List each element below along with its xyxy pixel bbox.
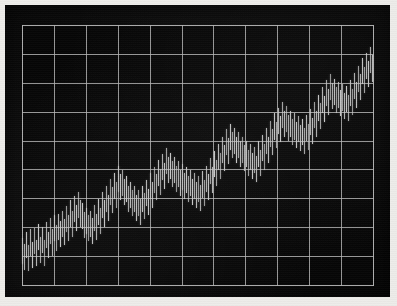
chart-bar — [66, 206, 67, 232]
chart-bar — [204, 180, 205, 206]
chart-bar — [336, 87, 337, 113]
chart-bar — [290, 111, 291, 137]
chart-bar — [176, 166, 177, 192]
chart-bar — [306, 115, 307, 141]
chart-bar — [82, 203, 83, 229]
chart-bar — [194, 173, 195, 199]
chart-bar — [140, 199, 141, 225]
chart-bar — [124, 179, 125, 205]
chart-bar — [212, 167, 213, 193]
chart-bar — [280, 116, 281, 142]
chart-bar — [230, 124, 231, 150]
chart-bar — [168, 157, 169, 183]
chart-bar — [196, 182, 197, 208]
chart-bar — [214, 151, 215, 177]
chart-bar — [166, 148, 167, 174]
chart-bar — [96, 214, 97, 240]
chart-bar — [118, 166, 119, 192]
chart-bar — [228, 138, 229, 164]
chart-bar — [30, 229, 31, 255]
chart-bar — [154, 167, 155, 193]
chart-bar — [28, 245, 29, 271]
chart-bar — [78, 192, 79, 218]
chart-bar — [294, 113, 295, 139]
chart-bar — [84, 212, 85, 238]
chart-bar — [44, 240, 45, 266]
chart-bar — [356, 82, 357, 108]
chart-bar — [274, 113, 275, 139]
chart-bar — [236, 137, 237, 163]
chart-bar — [156, 174, 157, 200]
chart-bar — [252, 153, 253, 179]
chart-bar — [330, 74, 331, 100]
chart-bar — [352, 89, 353, 115]
chart-bar — [188, 176, 189, 202]
chart-bar — [326, 80, 327, 106]
chart-bar — [184, 173, 185, 199]
chart-bar — [104, 200, 105, 226]
chart-bar — [58, 214, 59, 240]
chart-bar — [298, 116, 299, 142]
chart-bar — [50, 218, 51, 244]
chart-bar — [360, 74, 361, 100]
chart-plot-area — [22, 25, 374, 286]
chart-bar — [180, 170, 181, 196]
chart-bar — [344, 93, 345, 119]
chart-bar — [262, 135, 263, 161]
chart-bar — [266, 128, 267, 154]
chart-bar — [110, 179, 111, 205]
chart-bar — [222, 137, 223, 163]
chart-bar — [258, 141, 259, 167]
chart-bar — [332, 83, 333, 109]
chart-bar — [340, 90, 341, 116]
chart-bar — [108, 195, 109, 221]
chart-bar — [62, 211, 63, 237]
chart-bar — [74, 196, 75, 222]
chart-bar — [132, 190, 133, 216]
chart-bar — [134, 186, 135, 212]
chart-bar — [284, 111, 285, 137]
chart-bar — [334, 79, 335, 105]
chart-bar — [256, 156, 257, 182]
chart-bar — [276, 122, 277, 148]
chart-bar — [100, 208, 101, 234]
crt-screen — [22, 25, 374, 286]
chart-bar — [246, 141, 247, 167]
chart-bar — [288, 115, 289, 141]
chart-bar — [46, 222, 47, 248]
chart-bar — [170, 153, 171, 179]
chart-bar — [52, 229, 53, 255]
chart-bar — [42, 227, 43, 253]
chart-bar — [152, 182, 153, 208]
chart-bar — [302, 119, 303, 145]
chart-bar — [68, 215, 69, 241]
chart-bar — [160, 169, 161, 195]
chart-bar — [126, 176, 127, 202]
chart-bar — [328, 89, 329, 115]
chart-bar — [250, 144, 251, 170]
chart-bar — [182, 164, 183, 190]
chart-bar — [338, 82, 339, 108]
chart-bar — [86, 208, 87, 234]
chart-bar — [370, 47, 371, 73]
chart-bar — [138, 190, 139, 216]
chart-bar — [70, 200, 71, 226]
chart-bar — [116, 182, 117, 208]
chart-bar — [128, 186, 129, 212]
chart-bar — [164, 163, 165, 189]
chart-bar — [162, 154, 163, 180]
chart-bar — [22, 238, 23, 264]
chart-bar — [150, 173, 151, 199]
chart-bar — [144, 193, 145, 219]
chart-bar — [286, 106, 287, 132]
chart-bar — [38, 224, 39, 250]
chart-bar — [358, 66, 359, 92]
chart-bar — [254, 147, 255, 173]
chart-bar — [34, 228, 35, 254]
chart-bar — [372, 55, 373, 81]
chart-bar — [322, 87, 323, 113]
chart-bar — [112, 187, 113, 213]
chart-bar — [72, 211, 73, 237]
chart-bar — [94, 205, 95, 231]
chart-bar — [200, 185, 201, 211]
